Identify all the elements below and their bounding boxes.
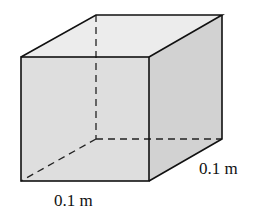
front-face [21,57,149,181]
cube-diagram: 0.1 m 0.1 m [0,0,274,213]
width-label: 0.1 m [54,191,93,210]
depth-label: 0.1 m [199,159,238,178]
